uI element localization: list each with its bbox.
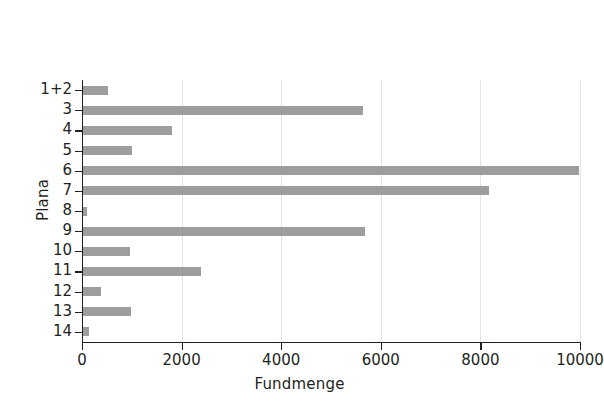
- y-axis-tick: [75, 312, 82, 313]
- bar: [82, 106, 363, 115]
- bar: [82, 186, 489, 195]
- x-axis-tick-label: 10000: [556, 351, 604, 369]
- y-axis-tick: [75, 191, 82, 192]
- bar: [82, 227, 365, 236]
- y-axis-line: [82, 80, 83, 342]
- x-axis-tick: [82, 343, 83, 350]
- y-axis-tick: [75, 151, 82, 152]
- y-axis-tick: [75, 332, 82, 333]
- x-axis-tick-label: 2000: [163, 351, 201, 369]
- bar: [82, 86, 108, 95]
- bar: [82, 166, 579, 175]
- x-axis-tick-label: 0: [77, 351, 87, 369]
- y-axis-tick-label: 14: [2, 322, 72, 340]
- y-axis-tick-label: 7: [2, 181, 72, 199]
- x-axis-line: [82, 342, 581, 343]
- y-axis-tick-label: 3: [2, 100, 72, 118]
- y-axis-tick: [75, 110, 82, 111]
- bar: [82, 247, 130, 256]
- y-axis-tick-label: 13: [2, 302, 72, 320]
- gridline-vertical: [182, 80, 183, 342]
- y-axis-tick: [75, 271, 82, 272]
- bar: [82, 267, 201, 276]
- x-axis-tick: [182, 343, 183, 350]
- y-axis-tick: [75, 292, 82, 293]
- y-axis-tick-labels: 1+234567891011121314: [0, 0, 72, 406]
- y-axis-tick-label: 6: [2, 161, 72, 179]
- gridline-vertical: [480, 80, 481, 342]
- x-axis-tick-label: 4000: [262, 351, 300, 369]
- bar: [82, 146, 132, 155]
- y-axis-tick: [75, 231, 82, 232]
- x-axis-tick: [580, 343, 581, 350]
- x-axis-tick-label: 8000: [461, 351, 499, 369]
- x-axis-tick: [381, 343, 382, 350]
- y-axis-tick-label: 5: [2, 141, 72, 159]
- bar: [82, 287, 101, 296]
- gridline-vertical: [580, 80, 581, 342]
- x-axis-tick: [480, 343, 481, 350]
- y-axis-tick-label: 4: [2, 120, 72, 138]
- y-axis-tick: [75, 251, 82, 252]
- x-axis-title: Fundmenge: [0, 375, 599, 393]
- y-axis-tick-label: 12: [2, 282, 72, 300]
- bar: [82, 126, 172, 135]
- bar: [82, 307, 131, 316]
- y-axis-tick-label: 10: [2, 241, 72, 259]
- y-axis-tick-label: 1+2: [2, 80, 72, 98]
- y-axis-tick-label: 11: [2, 261, 72, 279]
- y-axis-tick: [75, 211, 82, 212]
- y-axis-tick: [75, 130, 82, 131]
- gridline-vertical: [281, 80, 282, 342]
- gridline-vertical: [381, 80, 382, 342]
- y-axis-tick-label: 8: [2, 201, 72, 219]
- y-axis-tick-label: 9: [2, 221, 72, 239]
- x-axis-tick: [281, 343, 282, 350]
- y-axis-tick: [75, 90, 82, 91]
- plot-area: [82, 80, 580, 342]
- x-axis-tick-label: 6000: [362, 351, 400, 369]
- y-axis-tick: [75, 171, 82, 172]
